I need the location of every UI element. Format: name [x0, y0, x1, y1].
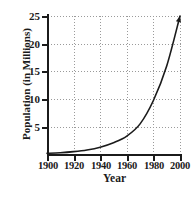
y-tick-mark-15 [42, 71, 48, 73]
gridline-vertical-1960 [127, 16, 128, 155]
y-tick-mark-20 [42, 44, 48, 46]
y-tick-mark-5 [42, 127, 48, 129]
gridline-vertical-1920 [74, 16, 75, 155]
x-tick-label-1960: 1960 [112, 160, 142, 171]
gridline-horizontal-15 [48, 71, 181, 72]
x-axis-title: Year [47, 172, 182, 184]
gridline-horizontal-20 [48, 44, 181, 45]
population-growth-chart: 25 20 15 10 5 1900 1920 1940 1960 1980 2… [0, 0, 193, 198]
gridline-horizontal-10 [48, 99, 181, 100]
x-tick-label-2000: 2000 [165, 160, 193, 171]
y-tick-mark-10 [42, 99, 48, 101]
y-axis-title: Population (in Millions) [20, 14, 32, 154]
y-tick-mark-25 [42, 16, 48, 18]
gridline-horizontal-5 [48, 127, 181, 128]
y-axis-line [47, 14, 49, 157]
x-tick-label-1920: 1920 [59, 160, 89, 171]
gridline-vertical-2000 [180, 16, 181, 155]
x-axis-line [47, 154, 182, 156]
curve-path [47, 16, 180, 153]
gridline-vertical-1980 [153, 16, 154, 155]
gridline-horizontal-25 [48, 16, 181, 17]
gridline-vertical-1940 [100, 16, 101, 155]
